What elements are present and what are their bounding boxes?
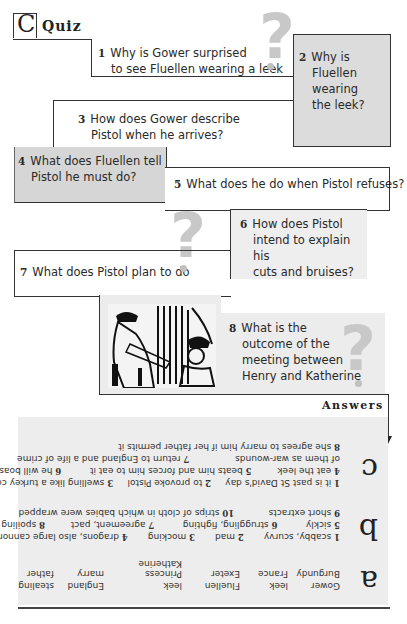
question-2-box: 2Why is Fluellen wearing the leek? [293, 34, 391, 147]
answers-a-words: Gower leek Fluellen leek England stealin… [10, 559, 340, 591]
woodcut-illustration [108, 304, 216, 388]
question-1: 1Why is Gower surprised to see Fluellen … [98, 45, 283, 77]
question-dot-icon [355, 380, 362, 387]
answers-c-letter: c [361, 452, 378, 487]
answers-heading: Answers [322, 399, 384, 412]
answers-a-letter: a [360, 564, 378, 599]
section-title: Quiz [42, 18, 82, 34]
answers-content: a Gower leek Fluellen leek England steal… [18, 417, 388, 605]
section-letter-box: C [13, 13, 37, 38]
section-letter: C [17, 10, 35, 38]
illustration-frame [99, 295, 221, 395]
bottom-rule [18, 607, 390, 609]
question-dot-icon [267, 63, 274, 70]
answers-b-letter: b [359, 512, 378, 547]
question-7-box: 7What does Pistol plan to do [14, 250, 231, 297]
question-4-box: 4What does Fluellen tell Pistol he must … [14, 147, 167, 203]
question-mark-icon: ? [259, 6, 295, 68]
question-mark-icon: ? [340, 318, 376, 380]
question-dot-icon [180, 265, 187, 272]
question-6-box: 6How does Pistol intend to explain his c… [230, 209, 367, 279]
question-3: 3How does Gower describe Pistol when he … [78, 111, 240, 143]
